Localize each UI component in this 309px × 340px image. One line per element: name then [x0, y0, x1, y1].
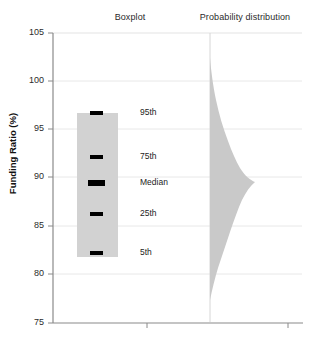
percentile-label-5th: 5th — [140, 247, 152, 257]
density-curve-shape — [210, 58, 255, 300]
percentile-label-25th: 25th — [140, 208, 157, 218]
chart-figure: Boxplot Probability distribution Funding… — [0, 0, 309, 340]
marker-median — [88, 180, 105, 186]
y-tick-label-95: 95 — [18, 123, 44, 133]
percentile-label-median: Median — [140, 177, 168, 187]
y-axis-ticks — [48, 33, 53, 323]
marker-p25 — [90, 212, 103, 216]
x-axis-ticks — [147, 323, 288, 328]
percentile-label-75th: 75th — [140, 151, 157, 161]
percentile-label-95th: 95th — [140, 107, 157, 117]
y-tick-label-75: 75 — [18, 317, 44, 327]
marker-p5 — [90, 251, 103, 255]
marker-p75 — [90, 155, 103, 159]
y-tick-label-105: 105 — [18, 27, 44, 37]
y-tick-label-100: 100 — [18, 75, 44, 85]
y-tick-label-85: 85 — [18, 220, 44, 230]
y-tick-label-90: 90 — [18, 171, 44, 181]
y-tick-label-80: 80 — [18, 268, 44, 278]
marker-p95 — [90, 111, 103, 115]
plot-area — [0, 0, 309, 340]
